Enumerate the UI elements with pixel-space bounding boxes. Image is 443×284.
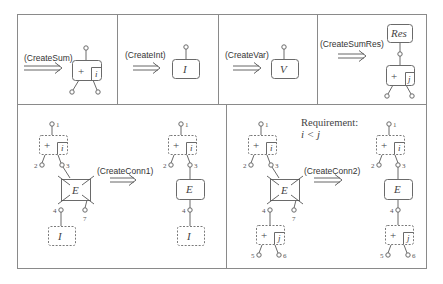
panel-create-sum-res: (CreateSumRes) Res + j [320, 25, 415, 99]
svg-text:5: 5 [251, 252, 255, 260]
port-icon [398, 52, 402, 56]
panel-create-conn2: 1 + i 2 3 E 7 4 [243, 117, 416, 260]
svg-text:7: 7 [292, 215, 296, 223]
requirement-title: Requirement: [301, 117, 358, 128]
svg-text:+: + [253, 139, 259, 151]
port-icon [282, 45, 286, 49]
port-icon [385, 94, 389, 98]
svg-text:2: 2 [371, 162, 375, 170]
port-icon [84, 46, 88, 50]
rule-label: (CreateSum) [24, 53, 73, 63]
rule-label: (CreateConn2) [304, 166, 360, 176]
rule-label: (CreateSumRes) [320, 39, 384, 49]
svg-text:E: E [393, 183, 401, 195]
port-icon [386, 253, 390, 257]
svg-text:+: + [261, 229, 267, 241]
rule-label: (CreateVar) [225, 50, 269, 60]
int-node: I [173, 45, 200, 79]
conn1-rhs: 1 + i 2 3 E 4 I [163, 121, 205, 246]
svg-text:6: 6 [283, 252, 287, 260]
port-icon [277, 253, 281, 257]
svg-text:E: E [185, 183, 193, 195]
outer-frame [18, 15, 427, 269]
port-icon [188, 163, 192, 167]
conn1-lhs: 1 + i 2 3 E 7 4 [34, 121, 94, 246]
port-icon [410, 94, 414, 98]
svg-text:1: 1 [185, 121, 189, 129]
panel-grid [18, 15, 427, 269]
svg-text:4: 4 [53, 207, 57, 215]
port-icon [387, 122, 391, 126]
port-icon [257, 253, 261, 257]
port-icon [59, 208, 63, 212]
sum-node: + i [70, 46, 102, 94]
svg-text:6: 6 [412, 252, 416, 260]
svg-text:2: 2 [34, 162, 38, 170]
svg-text:3: 3 [275, 162, 279, 170]
svg-text:+: + [381, 139, 387, 151]
svg-text:3: 3 [402, 162, 406, 170]
svg-text:4: 4 [390, 207, 394, 215]
panel-create-conn1: 1 + i 2 3 E 7 4 [34, 121, 205, 246]
svg-text:3: 3 [66, 162, 70, 170]
panel-create-sum: (CreateSum) + i [24, 46, 102, 94]
res-sum-node: Res + j [385, 25, 415, 99]
conn2-rhs: 1 + i 2 3 E 4 + j 5 [371, 121, 416, 260]
svg-text:3: 3 [194, 162, 198, 170]
rule-label: (CreateConn1) [97, 166, 153, 176]
port-icon [184, 45, 188, 49]
svg-text:4: 4 [262, 207, 266, 215]
svg-text:2: 2 [163, 162, 167, 170]
panel-create-int: (CreateInt) I [125, 45, 200, 79]
requirement-expr: i < j [301, 128, 320, 140]
svg-text:1: 1 [56, 121, 60, 129]
port-icon [269, 163, 273, 167]
port-icon [60, 163, 64, 167]
port-icon [96, 90, 100, 94]
double-arrow-icon [233, 63, 261, 74]
port-icon [292, 208, 296, 212]
svg-text:+: + [78, 65, 84, 77]
svg-text:+: + [390, 229, 396, 241]
int-box-dashed [49, 227, 76, 246]
double-arrow-icon [133, 63, 160, 74]
double-arrow-icon [338, 51, 366, 62]
double-arrow-icon [110, 175, 136, 186]
double-arrow-icon [314, 175, 342, 186]
port-icon [406, 253, 410, 257]
port-icon [40, 163, 44, 167]
panel-create-var: (CreateVar) V [225, 45, 299, 79]
conn2-lhs: 1 + i 2 3 E 7 4 [243, 121, 303, 260]
port-icon [377, 163, 381, 167]
svg-text:Res: Res [390, 27, 407, 39]
svg-text:1: 1 [393, 121, 397, 129]
svg-text:j: j [407, 74, 411, 84]
svg-text:1: 1 [265, 121, 269, 129]
rule-label: (CreateInt) [125, 50, 166, 60]
port-icon [50, 122, 54, 126]
svg-text:2: 2 [243, 162, 247, 170]
port-icon [169, 163, 173, 167]
svg-text:E: E [280, 184, 288, 196]
svg-text:j: j [406, 233, 410, 243]
port-icon [179, 122, 183, 126]
port-icon [249, 163, 253, 167]
port-icon [70, 90, 74, 94]
port-icon [268, 208, 272, 212]
svg-text:+: + [44, 139, 50, 151]
svg-text:j: j [277, 233, 281, 243]
svg-text:5: 5 [380, 252, 384, 260]
port-icon [259, 122, 263, 126]
svg-text:+: + [391, 70, 397, 82]
port-icon [396, 163, 400, 167]
int-box-dashed [178, 227, 205, 246]
port-icon [83, 208, 87, 212]
graph-rewrite-rules-diagram: (CreateSum) + i (CreateInt) [0, 0, 443, 284]
port-icon [396, 208, 400, 212]
svg-text:4: 4 [182, 207, 186, 215]
port-icon [188, 208, 192, 212]
svg-text:E: E [71, 184, 79, 196]
svg-text:+: + [173, 139, 179, 151]
svg-text:7: 7 [83, 215, 87, 223]
var-node: V [272, 45, 299, 79]
